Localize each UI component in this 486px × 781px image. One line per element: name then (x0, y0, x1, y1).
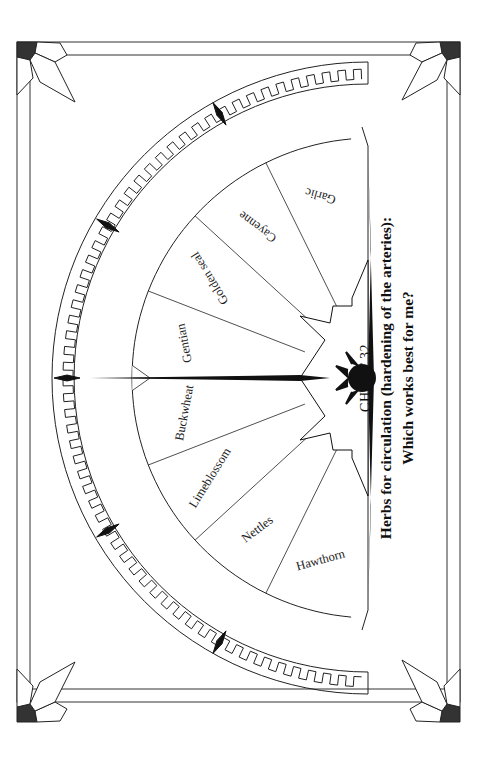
star-pointer-icon (90, 153, 376, 604)
chart-title: Herbs for circulation (hardening of the … (375, 217, 397, 539)
corner-ornament-bottom-left (17, 662, 75, 722)
sector-label-golden-seal[interactable]: Golden seal (188, 249, 232, 307)
sector-label-limeblossom[interactable]: Limeblossom (186, 445, 234, 510)
corner-ornament-top-left (17, 42, 75, 102)
diamond-marker-icon (213, 631, 226, 654)
diamond-marker-icon (213, 103, 226, 126)
sector-label-gentian[interactable]: Gentian (174, 322, 195, 364)
sector-label-hawthorn[interactable]: Hawthorn (295, 546, 348, 573)
chart-question: Which works best for me? (397, 217, 419, 539)
diamond-marker-icon (54, 375, 80, 381)
chart-number: CHART 32 (357, 217, 375, 539)
sector-label-nettles[interactable]: Nettles (239, 513, 276, 546)
corner-ornament-top-right (402, 42, 460, 100)
sector-label-buckwheat[interactable]: Buckwheat (172, 383, 196, 441)
sector-label-cayenne[interactable]: Cayenne (235, 208, 279, 246)
sector-label-garlic[interactable]: Garlic (303, 185, 337, 207)
corner-ornament-bottom-right (402, 660, 460, 722)
